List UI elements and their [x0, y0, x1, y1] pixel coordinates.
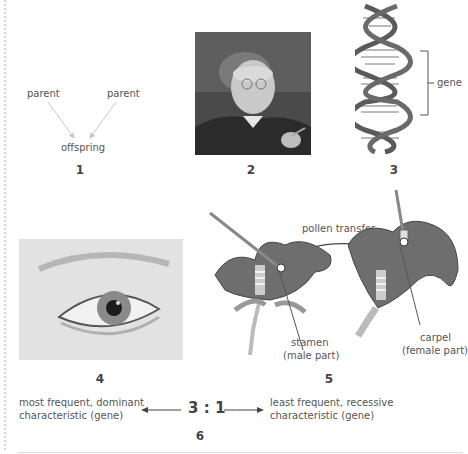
portrait-image-icon — [195, 32, 311, 155]
eye-photo — [19, 239, 183, 360]
gene-bracket-icon — [420, 50, 436, 116]
ratio-value: 3 : 1 — [188, 399, 225, 417]
panel-number-2: 2 — [241, 163, 261, 177]
parent-left-label: parent — [27, 88, 60, 99]
inheritance-arrows-icon — [40, 100, 130, 145]
carpel-note-label: (female part) — [402, 345, 468, 356]
panel-number-5: 5 — [319, 372, 339, 386]
panel-number-1: 1 — [70, 163, 90, 177]
recessive-line2-label: characteristic (gene) — [270, 410, 374, 421]
arrow-right-icon — [224, 406, 264, 414]
dominant-line1-label: most frequent, dominant — [19, 397, 144, 408]
portrait-photo — [195, 32, 311, 155]
bottom-rule-divider — [18, 452, 463, 453]
panel-number-6: 6 — [190, 429, 210, 443]
stamen-note-label: (male part) — [283, 350, 339, 361]
stamen-label: stamen — [291, 337, 329, 348]
eye-image-icon — [19, 239, 183, 360]
page-margin-dots — [4, 0, 6, 450]
flower-carpel-icon — [348, 190, 463, 340]
panel-number-3: 3 — [384, 163, 404, 177]
arrow-left-icon — [141, 406, 181, 414]
recessive-line1-label: least frequent, recessive — [270, 397, 393, 408]
gene-label: gene — [437, 77, 462, 88]
panel-number-4: 4 — [90, 372, 110, 386]
carpel-label: carpel — [420, 332, 451, 343]
flower-stamen-icon — [205, 210, 355, 360]
dominant-line2-label: characteristic (gene) — [19, 410, 123, 421]
parent-right-label: parent — [107, 88, 140, 99]
dna-helix-icon — [355, 2, 415, 154]
offspring-label: offspring — [61, 142, 105, 153]
